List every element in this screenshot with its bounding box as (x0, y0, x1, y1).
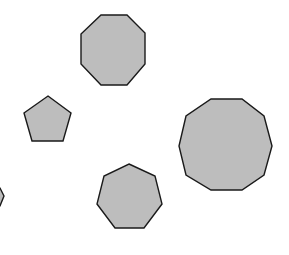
partial-polygon-shape (0, 186, 4, 208)
pentagon-shape (24, 96, 71, 141)
polygon-canvas (0, 0, 289, 255)
heptagon-shape (97, 164, 162, 228)
decagon-shape (179, 99, 272, 190)
octagon-shape (81, 15, 145, 85)
